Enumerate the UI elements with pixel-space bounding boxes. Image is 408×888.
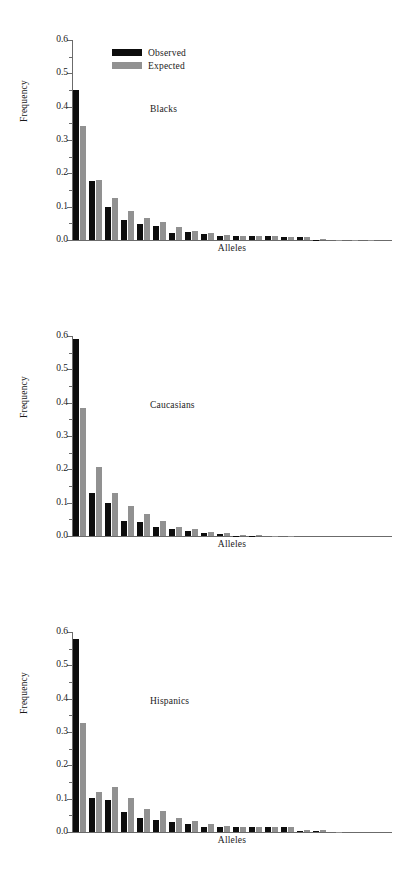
bar-observed xyxy=(169,233,175,240)
bar-observed xyxy=(249,236,255,240)
bar-group xyxy=(329,632,345,832)
bar-observed xyxy=(73,339,79,536)
bar-expected xyxy=(128,211,134,240)
bar-group xyxy=(73,336,89,536)
bar-group xyxy=(169,632,185,832)
bar-observed xyxy=(217,534,223,536)
panel-caucasians: Frequency 0.60.50.40.30.20.10.0 Caucasia… xyxy=(0,296,408,592)
bar-group xyxy=(297,40,313,240)
plot-area-2 xyxy=(72,336,392,536)
bars-container-2 xyxy=(72,336,392,536)
bar-expected xyxy=(288,237,294,240)
bar-expected xyxy=(288,827,294,832)
bar-expected xyxy=(240,236,246,240)
bar-expected xyxy=(240,827,246,832)
bar-observed xyxy=(297,237,303,240)
x-axis-label-1: Alleles xyxy=(72,243,392,253)
bar-expected xyxy=(256,236,262,240)
y-tick-label: 0.6 xyxy=(28,627,68,637)
bar-observed xyxy=(217,827,223,832)
y-tick-label: 0.5 xyxy=(28,68,68,78)
y-tick-label: 0.3 xyxy=(28,135,68,145)
bar-observed xyxy=(169,529,175,536)
bar-observed xyxy=(153,527,159,536)
bar-group xyxy=(89,632,105,832)
bar-expected xyxy=(128,506,134,536)
legend-swatch-expected-icon xyxy=(112,62,142,69)
bar-group xyxy=(233,336,249,536)
bar-expected xyxy=(160,811,166,832)
bar-expected xyxy=(128,798,134,832)
bar-expected xyxy=(320,239,326,240)
bar-expected xyxy=(272,827,278,832)
bar-group xyxy=(345,40,361,240)
bar-observed xyxy=(89,798,95,832)
bar-group xyxy=(329,40,345,240)
y-tick-label: 0.0 xyxy=(28,827,68,837)
bar-observed xyxy=(153,226,159,240)
bar-group xyxy=(73,632,89,832)
bar-expected xyxy=(256,827,262,832)
y-tick-label: 0.3 xyxy=(28,727,68,737)
bar-observed xyxy=(137,224,143,240)
x-axis-line-3 xyxy=(72,832,392,833)
y-tick-label: 0.0 xyxy=(28,531,68,541)
bar-group xyxy=(89,40,105,240)
bar-expected xyxy=(112,787,118,832)
bar-observed xyxy=(89,493,95,536)
panel-blacks: Frequency 0.60.50.40.30.20.10.0 Blacks A… xyxy=(0,0,408,296)
bar-expected xyxy=(256,535,262,536)
bar-observed xyxy=(281,827,287,832)
bar-group xyxy=(105,632,121,832)
bar-group xyxy=(345,632,361,832)
bar-group xyxy=(185,336,201,536)
bar-group xyxy=(201,40,217,240)
bar-group xyxy=(281,40,297,240)
bar-group xyxy=(361,40,377,240)
bar-expected xyxy=(240,535,246,536)
y-tick-label: 0.5 xyxy=(28,364,68,374)
bar-group xyxy=(377,336,393,536)
bar-expected xyxy=(192,231,198,240)
allele-frequency-figure: Frequency 0.60.50.40.30.20.10.0 Blacks A… xyxy=(0,0,408,888)
x-axis-line-2 xyxy=(72,536,392,537)
bar-group xyxy=(281,336,297,536)
plot-area-3 xyxy=(72,632,392,832)
bar-group xyxy=(121,336,137,536)
bar-observed xyxy=(89,181,95,240)
bar-group xyxy=(201,632,217,832)
bar-group xyxy=(137,336,153,536)
bars-container-3 xyxy=(72,632,392,832)
bar-group xyxy=(217,40,233,240)
bar-group xyxy=(217,336,233,536)
bar-observed xyxy=(297,831,303,832)
panel-title-3: Hispanics xyxy=(150,696,189,706)
bar-expected xyxy=(80,126,86,240)
bar-group xyxy=(233,40,249,240)
bar-group xyxy=(169,336,185,536)
bar-group xyxy=(377,40,393,240)
bar-group xyxy=(233,632,249,832)
bar-expected xyxy=(96,180,102,240)
panel-title-1: Blacks xyxy=(150,104,177,114)
x-axis-label-2: Alleles xyxy=(72,539,392,549)
legend-label-expected: Expected xyxy=(148,61,185,71)
bar-group xyxy=(361,336,377,536)
y-tick-label: 0.4 xyxy=(28,102,68,112)
legend-label-observed: Observed xyxy=(148,48,186,58)
bar-group xyxy=(265,40,281,240)
bar-expected xyxy=(192,821,198,832)
panel-title-2: Caucasians xyxy=(150,400,195,410)
bar-group xyxy=(185,40,201,240)
bar-observed xyxy=(281,237,287,240)
bar-expected xyxy=(208,233,214,240)
bar-group xyxy=(313,336,329,536)
bar-group xyxy=(249,336,265,536)
bar-group xyxy=(281,632,297,832)
bar-expected xyxy=(176,818,182,832)
legend-row-expected: Expected xyxy=(112,59,186,72)
bar-expected xyxy=(112,493,118,536)
bar-expected xyxy=(112,198,118,240)
bar-observed xyxy=(217,236,223,240)
bar-expected xyxy=(304,830,310,832)
